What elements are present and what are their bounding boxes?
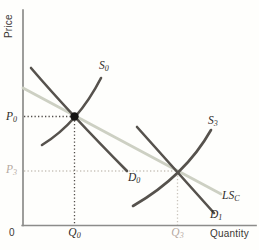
y-axis-label: Price [4,14,14,38]
quantity-label-q0-main: Q [68,226,76,238]
curve-label-d0-sub: 0 [136,176,140,185]
quantity-label-q3-sub: 3 [180,231,184,240]
price-label-p3-main: P [6,163,13,175]
demand-curve-d0 [31,68,127,171]
curve-label-d1: D1 [210,209,222,221]
supply-demand-diagram: Price Quantity 0 S0 S3 D0 D1 LSC P0 P3 Q… [0,0,259,250]
price-label-p0-sub: 0 [13,115,17,124]
quantity-label-q3-main: Q [171,226,179,238]
curve-label-s3: S3 [208,115,218,127]
x-axis-label: Quantity [210,229,249,239]
curve-label-s0: S0 [99,60,109,72]
long-run-supply-curve-lsc [23,88,221,194]
quantity-label-q3: Q3 [169,227,186,239]
price-label-p3: P3 [2,164,17,176]
origin-label: 0 [9,228,15,238]
curve-label-lsc: LSC [222,190,240,202]
curve-label-d1-sub: 1 [218,213,222,222]
equilibrium-point-dot [70,112,78,120]
demand-curve-d1 [137,127,214,213]
price-label-p0-main: P [6,110,13,122]
price-label-p3-sub: 3 [13,168,17,177]
curve-label-lsc-main: LS [222,189,234,201]
curve-label-s3-sub: 3 [214,119,218,128]
quantity-label-q0-sub: 0 [77,231,81,240]
price-label-p0: P0 [2,111,17,123]
curve-label-lsc-sub: C [234,194,239,203]
curve-label-s0-sub: 0 [105,64,109,73]
quantity-label-q0: Q0 [66,227,83,239]
curve-label-d0: D0 [128,172,140,184]
